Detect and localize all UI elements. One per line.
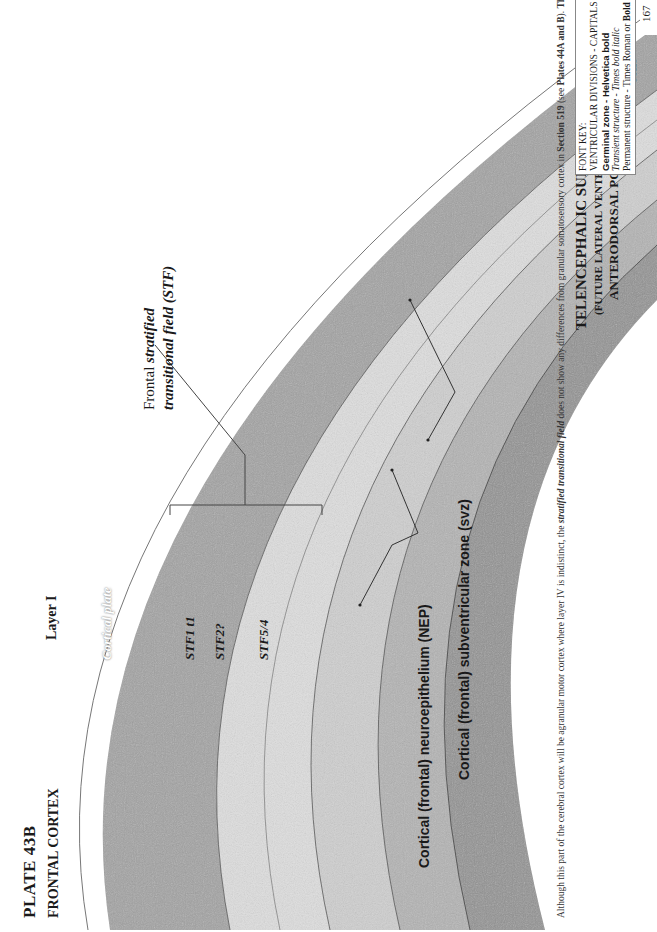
font-key-box: FONT KEY: VENTRICULAR DIVISIONS - CAPITA… (575, 0, 636, 175)
label-stf2: STF2? (212, 623, 228, 660)
label-svz: Cortical (frontal) subventricular zone (… (456, 499, 472, 780)
label-stf1: STF1 t1 (182, 616, 198, 660)
label-cortical-plate: Cortical plate (99, 587, 115, 660)
label-stf54: STF5/4 (256, 620, 272, 660)
label-stf-line2: transitional field (STF) (160, 266, 177, 410)
plate-page: 167 PLATE 43B FRONTAL CORTEX Layer I Cor… (0, 0, 657, 932)
label-nep: Cortical (frontal) neuroepithelium (NEP) (416, 604, 432, 868)
label-layer-i: Layer I (44, 596, 60, 640)
plate-subtitle: FRONTAL CORTEX (46, 788, 62, 918)
plate-title: PLATE 43B (20, 825, 40, 918)
label-stf-line1: Frontal stratified (141, 308, 158, 410)
page-number: 167 (640, 6, 652, 23)
description-paragraph: Although this part of the cerebral corte… (555, 418, 568, 918)
